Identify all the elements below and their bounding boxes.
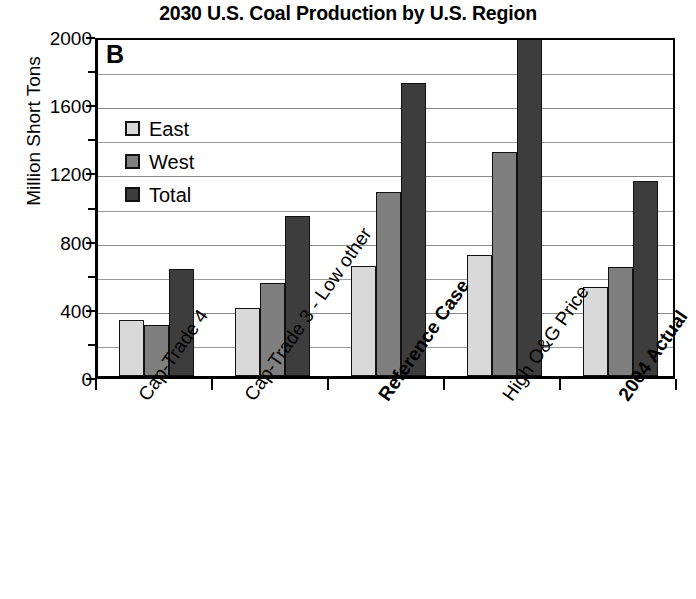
bar-west-3[interactable] — [492, 152, 517, 376]
y-tick-mark — [86, 37, 95, 39]
x-axis-separator-tick — [95, 379, 97, 390]
chart-legend: East West Total — [125, 112, 194, 211]
y-tick-label: 2000 — [2, 29, 92, 48]
x-axis-separator-tick — [675, 379, 677, 390]
legend-item-total: Total — [125, 178, 194, 211]
y-tick-mark-minor — [88, 71, 95, 73]
y-tick-label: 1200 — [2, 165, 92, 184]
x-axis-separator-tick — [559, 379, 561, 390]
legend-label-east: East — [149, 119, 189, 139]
y-tick-label: 0 — [2, 370, 92, 389]
panel-label: B — [106, 42, 124, 67]
x-axis-separator-tick — [211, 379, 213, 390]
x-axis-separator-tick — [327, 379, 329, 390]
bar-group — [562, 40, 675, 376]
bar-total-3[interactable] — [517, 38, 542, 376]
y-tick-mark-minor — [88, 276, 95, 278]
legend-swatch-total-icon — [125, 187, 140, 202]
y-tick-mark — [86, 173, 95, 175]
x-axis-separator-tick — [443, 379, 445, 390]
legend-swatch-east-icon — [125, 121, 140, 136]
y-tick-mark-minor — [88, 208, 95, 210]
legend-swatch-west-icon — [125, 154, 140, 169]
y-tick-label: 1600 — [2, 97, 92, 116]
y-tick-label: 400 — [2, 302, 92, 321]
bar-east-1[interactable] — [235, 308, 260, 376]
bar-west-2[interactable] — [376, 192, 401, 376]
y-tick-mark-minor — [88, 344, 95, 346]
y-tick-label: 800 — [2, 234, 92, 253]
y-tick-mark — [86, 105, 95, 107]
y-tick-mark — [86, 378, 95, 380]
bar-west-4[interactable] — [608, 267, 633, 376]
y-tick-mark-minor — [88, 139, 95, 141]
chart-figure: 2030 U.S. Coal Production by U.S. Region… — [0, 0, 696, 599]
chart-title: 2030 U.S. Coal Production by U.S. Region — [0, 2, 696, 25]
bar-east-2[interactable] — [351, 266, 376, 376]
y-tick-mark — [86, 310, 95, 312]
bar-east-0[interactable] — [119, 320, 144, 376]
legend-item-east: East — [125, 112, 194, 145]
legend-item-west: West — [125, 145, 194, 178]
y-tick-mark — [86, 242, 95, 244]
bar-east-3[interactable] — [467, 255, 492, 376]
legend-label-total: Total — [149, 185, 191, 205]
legend-label-west: West — [149, 152, 194, 172]
